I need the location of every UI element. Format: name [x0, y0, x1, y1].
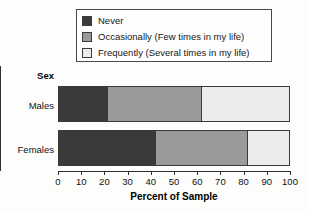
bar-segment-females-never	[59, 131, 156, 165]
legend-label-never: Never	[98, 15, 123, 26]
category-label-males: Males	[29, 100, 54, 111]
legend-swatch-occasionally	[82, 32, 92, 42]
x-axis-tick	[244, 171, 245, 175]
bar-segment-males-frequently	[202, 87, 289, 121]
x-axis-tick	[220, 171, 221, 175]
y-axis-line	[0, 66, 1, 171]
legend-item-occasionally: Occasionally (Few times in my life)	[82, 29, 271, 44]
bar-males	[58, 86, 290, 122]
bar-females	[58, 130, 290, 166]
legend-swatch-frequently	[82, 48, 92, 58]
x-axis-tick	[104, 171, 105, 175]
plot-area	[58, 66, 290, 171]
bar-segment-females-frequently	[248, 131, 289, 165]
x-axis-tick	[151, 171, 152, 175]
bar-segment-females-occasionally	[156, 131, 248, 165]
category-label-females: Females	[18, 144, 54, 155]
legend-item-never: Never	[82, 13, 271, 28]
x-axis-tick	[174, 171, 175, 175]
legend-item-frequently: Frequently (Several times in my life)	[82, 45, 271, 60]
legend-swatch-never	[82, 16, 92, 26]
x-axis-title: Percent of Sample	[58, 191, 290, 202]
x-axis-tick-label: 100	[275, 176, 305, 187]
x-axis-tick	[290, 171, 291, 175]
x-axis-tick	[58, 171, 59, 175]
legend-label-frequently: Frequently (Several times in my life)	[98, 47, 250, 58]
bar-segment-males-occasionally	[108, 87, 201, 121]
x-axis-tick	[197, 171, 198, 175]
x-axis-tick	[81, 171, 82, 175]
y-axis-title: Sex	[37, 70, 54, 81]
bar-segment-males-never	[59, 87, 108, 121]
x-axis-tick	[267, 171, 268, 175]
x-axis-tick	[128, 171, 129, 175]
chart-legend: Never Occasionally (Few times in my life…	[76, 9, 272, 62]
stacked-bar-chart-figure: Never Occasionally (Few times in my life…	[0, 0, 309, 213]
legend-label-occasionally: Occasionally (Few times in my life)	[98, 31, 244, 42]
